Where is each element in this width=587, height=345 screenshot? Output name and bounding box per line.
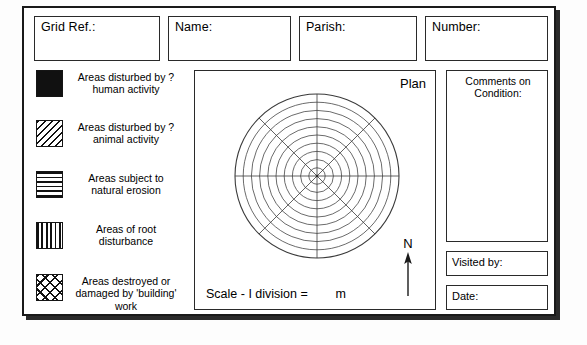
legend-item-label: Areas of root disturbance — [71, 222, 181, 248]
north-letter: N — [397, 237, 419, 251]
plan-title: Plan — [400, 76, 426, 91]
comments-on-condition-box[interactable]: Comments on Condition: — [446, 70, 548, 242]
field-name-label: Name: — [175, 20, 212, 34]
legend-item-label: Areas disturbed by ? human activity — [71, 70, 181, 96]
scanned-page: Grid Ref.: Name: Parish: Number: Areas d… — [0, 0, 587, 345]
field-grid-ref-label: Grid Ref.: — [41, 20, 96, 34]
vertical-lines-swatch-icon — [36, 222, 63, 249]
north-arrow-glyph — [397, 251, 419, 297]
legend-item-building-work: Areas destroyed or damaged by 'building'… — [36, 274, 184, 312]
solid-black-swatch-icon — [36, 70, 63, 97]
date-box[interactable]: Date: — [446, 285, 548, 310]
diagonal-hatch-swatch-icon — [36, 120, 63, 147]
north-arrow-icon: N — [397, 237, 419, 299]
legend-item-label: Areas disturbed by ? animal activity — [71, 120, 181, 146]
polar-grid-chart[interactable] — [232, 91, 402, 261]
legend: Areas disturbed by ? human activity Area… — [36, 70, 184, 310]
field-grid-ref[interactable]: Grid Ref.: — [34, 16, 160, 61]
legend-item-natural-erosion: Areas subject to natural erosion — [36, 171, 184, 198]
legend-item-human-activity: Areas disturbed by ? human activity — [36, 70, 184, 97]
legend-item-label: Areas destroyed or damaged by 'building'… — [71, 274, 181, 312]
visited-by-label: Visited by: — [452, 256, 503, 268]
header-field-row: Grid Ref.: Name: Parish: Number: — [34, 16, 548, 61]
field-name[interactable]: Name: — [168, 16, 291, 61]
visited-by-box[interactable]: Visited by: — [446, 251, 548, 276]
field-number-label: Number: — [432, 20, 481, 34]
field-parish-label: Parish: — [306, 20, 346, 34]
horizontal-lines-swatch-icon — [36, 171, 63, 198]
comments-label: Comments on Condition: — [453, 75, 543, 99]
legend-item-root-disturbance: Areas of root disturbance — [36, 222, 184, 249]
scale-caption: Scale - I division = m — [206, 287, 346, 301]
field-parish[interactable]: Parish: — [299, 16, 417, 61]
plan-area[interactable]: Plan Scale - I division = m N — [194, 70, 436, 310]
field-number[interactable]: Number: — [425, 16, 548, 61]
date-label: Date: — [452, 290, 478, 302]
legend-item-label: Areas subject to natural erosion — [71, 171, 181, 197]
survey-form-frame: Grid Ref.: Name: Parish: Number: Areas d… — [22, 6, 556, 316]
legend-item-animal-activity: Areas disturbed by ? animal activity — [36, 120, 184, 147]
grid-center-point — [316, 175, 319, 178]
cross-hatch-swatch-icon — [36, 274, 63, 301]
